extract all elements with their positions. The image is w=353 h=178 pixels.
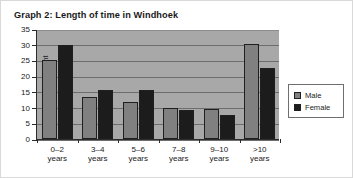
gridline [37,92,279,93]
legend-item-male[interactable]: Male [294,89,339,101]
bar-female-4 [179,110,194,139]
y-axis-tick-label: 35 [4,26,30,34]
legend-swatch-male [294,92,301,99]
gridline [37,61,279,62]
page-title: Graph 2: Length of time in Windhoek [14,10,178,20]
y-axis-tick [32,92,37,93]
x-axis-label-6: >10 years [250,145,270,163]
bar-male-1 [42,60,57,139]
y-axis-tick [32,30,37,31]
y-axis-tick-label: 0 [4,136,30,144]
bar-female-6 [260,68,275,139]
bar-female-3 [139,90,154,139]
gridline [37,108,279,109]
gridline [37,77,279,78]
y-axis-tick-label: 5 [4,120,30,128]
bar-female-1 [58,45,73,139]
x-axis-label-4: 7–8 years [169,145,189,163]
plot-frame: Percent 051015202530350–2 years3–4 years… [36,30,279,140]
y-axis-tick-label: 30 [4,42,30,50]
gridline [37,30,279,31]
y-axis-tick [32,61,37,62]
x-axis-tick [118,139,119,143]
legend: MaleFemale [288,84,344,118]
bar-male-3 [123,102,138,139]
y-axis-tick [32,77,37,78]
bar-male-5 [204,109,219,139]
x-axis-tick [199,139,200,143]
x-axis-tick [37,139,38,143]
bar-female-5 [220,115,235,139]
x-axis-label-5: 9–10 years [209,145,229,163]
x-axis-label-2: 3–4 years [88,145,108,163]
bar-female-2 [98,90,113,139]
graph-figure: Graph 2: Length of time in Windhoek Perc… [0,0,353,178]
plot-area [37,30,279,139]
legend-label-male: Male [305,91,321,100]
bar-male-6 [244,44,259,139]
y-axis-tick [32,108,37,109]
gridline [37,45,279,46]
x-axis-label-1: 0–2 years [47,145,67,163]
y-axis-tick-label: 15 [4,89,30,97]
bar-male-4 [163,108,178,139]
y-axis-tick [32,124,37,125]
x-axis-tick [280,139,281,143]
legend-label-female: Female [305,103,330,112]
y-axis-tick [32,45,37,46]
x-axis-tick [240,139,241,143]
gridline [37,124,279,125]
bar-male-2 [82,97,97,139]
x-axis-tick [78,139,79,143]
x-axis-tick [159,139,160,143]
legend-item-female[interactable]: Female [294,101,339,113]
legend-swatch-female [294,104,301,111]
y-axis-tick-label: 10 [4,105,30,113]
y-axis-tick-label: 25 [4,57,30,65]
x-axis-label-3: 5–6 years [128,145,148,163]
y-axis-tick-label: 20 [4,73,30,81]
